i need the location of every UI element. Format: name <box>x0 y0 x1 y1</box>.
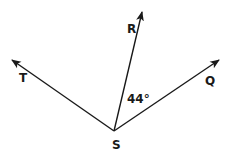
ray-st <box>12 60 114 131</box>
point-label-t: T <box>19 71 28 85</box>
vertex-label-s: S <box>112 138 121 152</box>
point-label-r: R <box>127 22 136 36</box>
angle-diagram: T R Q S 44° <box>0 0 231 155</box>
angle-measure-label: 44° <box>127 92 150 106</box>
point-label-q: Q <box>205 74 215 88</box>
